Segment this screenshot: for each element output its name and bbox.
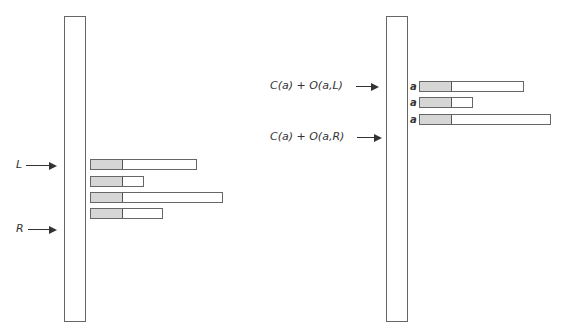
bar-header-fill <box>91 177 123 186</box>
record-bar <box>90 159 197 170</box>
arrow-icon <box>26 165 55 166</box>
left-memory-column <box>64 16 86 322</box>
arrow-icon <box>28 229 55 230</box>
bar-header-fill <box>91 209 123 218</box>
pointer-label-l: L <box>16 159 22 171</box>
record-bar <box>90 208 163 219</box>
right-memory-column <box>386 16 408 322</box>
record-bar <box>419 114 551 125</box>
bar-row-label: a <box>410 97 417 108</box>
bar-row-label: a <box>410 114 417 125</box>
bar-row-label: a <box>410 81 417 92</box>
record-bar <box>90 176 144 187</box>
bar-header-fill <box>91 160 123 169</box>
pointer-label-c-o-r: C(a) + O(a,R) <box>270 131 344 143</box>
arrow-icon <box>356 86 377 87</box>
pointer-label-r: R <box>16 223 24 235</box>
record-bar <box>419 97 473 108</box>
bar-header-fill <box>420 98 452 107</box>
arrow-icon <box>357 137 380 138</box>
bar-header-fill <box>420 115 452 124</box>
bar-header-fill <box>420 82 452 91</box>
pointer-label-c-o-l: C(a) + O(a,L) <box>270 80 343 92</box>
record-bar <box>90 192 223 203</box>
record-bar <box>419 81 524 92</box>
bar-header-fill <box>91 193 123 202</box>
